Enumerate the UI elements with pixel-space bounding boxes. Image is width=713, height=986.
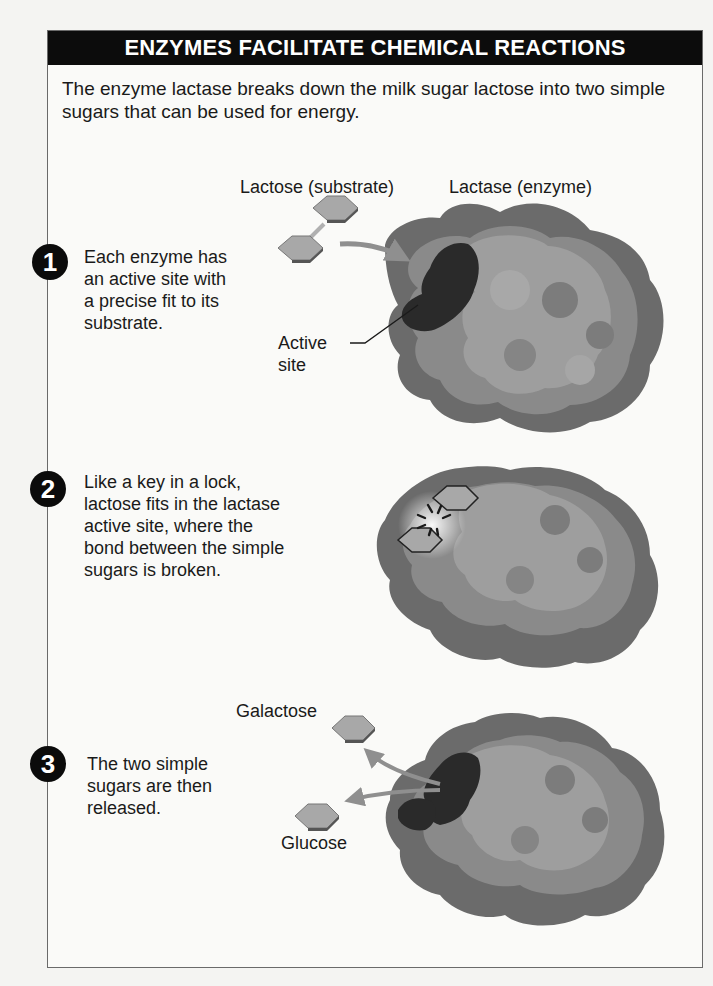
active-site-label: Active site [278, 332, 327, 376]
step-3-line: The two simple [87, 753, 212, 775]
step-2-badge: 2 [30, 471, 66, 507]
step-2-line: lactose fits in the lactase [84, 493, 284, 515]
step-3-text: The two simple sugars are then released. [87, 753, 212, 819]
step-2-text: Like a key in a lock, lactose fits in th… [84, 471, 284, 581]
lactose-substrate-label: Lactose (substrate) [240, 176, 394, 198]
step-2-line: sugars is broken. [84, 559, 284, 581]
lactose-substrate [278, 196, 358, 263]
lactase-enzyme-1 [385, 204, 664, 433]
step-1-line: a precise fit to its [84, 290, 227, 312]
step-1-line: an active site with [84, 268, 227, 290]
step-2-line: active site, where the [84, 515, 284, 537]
step-3-badge: 3 [30, 746, 66, 782]
step-3-line: released. [87, 797, 212, 819]
active-site-label-line2: site [278, 354, 327, 376]
step-2-line: bond between the simple [84, 537, 284, 559]
step-1-text: Each enzyme has an active site with a pr… [84, 246, 227, 334]
lactase-enzyme-label: Lactase (enzyme) [449, 176, 592, 198]
glucose-label: Glucose [281, 832, 347, 854]
galactose-molecule [332, 716, 375, 743]
glucose-molecule [295, 804, 339, 831]
active-site-label-line1: Active [278, 332, 327, 354]
step-1-badge: 1 [32, 244, 68, 280]
galactose-label: Galactose [236, 700, 317, 722]
step-3-line: sugars are then [87, 775, 212, 797]
step-1-line: Each enzyme has [84, 246, 227, 268]
lactase-enzyme-3 [386, 713, 665, 925]
step-2-line: Like a key in a lock, [84, 471, 284, 493]
step-1-line: substrate. [84, 312, 227, 334]
